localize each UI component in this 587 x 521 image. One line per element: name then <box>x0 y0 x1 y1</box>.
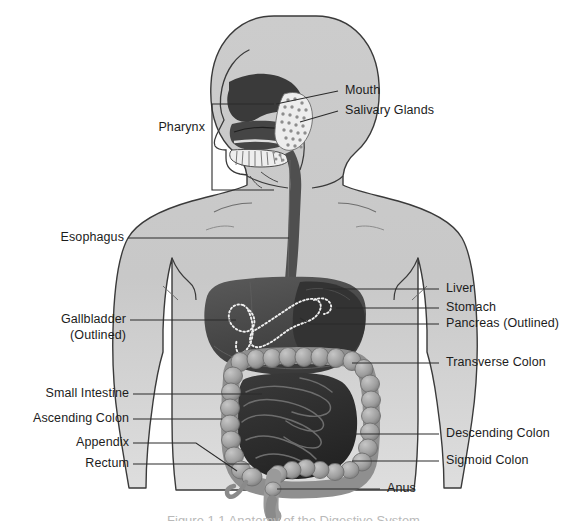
label-transverse-colon: Transverse Colon <box>446 355 546 370</box>
label-rectum: Rectum <box>0 456 129 471</box>
label-pharynx: Pharynx <box>45 120 205 135</box>
digestive-system-figure: Mouth Salivary Glands Pharynx Esophagus … <box>0 0 587 521</box>
label-esophagus: Esophagus <box>0 230 124 245</box>
label-sigmoid-colon: Sigmoid Colon <box>446 453 529 468</box>
label-stomach: Stomach <box>446 300 496 315</box>
label-appendix: Appendix <box>0 435 129 450</box>
label-pancreas: Pancreas (Outlined) <box>446 316 559 331</box>
label-salivary-glands: Salivary Glands <box>345 103 434 118</box>
label-descending-colon: Descending Colon <box>446 426 550 441</box>
label-gallbladder-line2: (Outlined) <box>70 328 126 342</box>
label-liver: Liver <box>446 281 474 296</box>
figure-caption: Figure 1.1 Anatomy of the Digestive Syst… <box>0 513 587 521</box>
label-anus: Anus <box>387 481 416 496</box>
label-ascending-colon: Ascending Colon <box>0 411 129 426</box>
label-mouth: Mouth <box>345 83 380 98</box>
rectum-anus-structure <box>265 476 281 516</box>
label-gallbladder: Gallbladder (Outlined) <box>0 312 126 343</box>
label-gallbladder-line1: Gallbladder <box>61 312 126 326</box>
label-small-intestine: Small Intestine <box>0 386 129 401</box>
